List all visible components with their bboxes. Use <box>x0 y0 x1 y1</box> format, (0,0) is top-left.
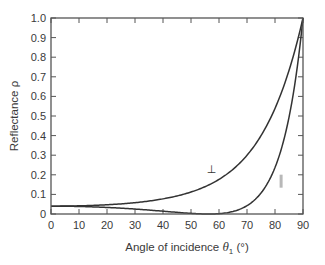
y-tick-label: 0.8 <box>31 51 46 63</box>
perpendicular-curve-label: ⊥ <box>207 163 217 176</box>
y-tick-label: 0 <box>40 208 46 220</box>
reflectance-chart: 00.10.20.30.40.50.60.70.80.91.0 01020304… <box>0 0 325 265</box>
parallel-curve-label <box>280 175 283 188</box>
y-axis-title: Reflectance ρ <box>8 80 20 151</box>
parallel-curve <box>51 18 303 214</box>
x-tick-label: 10 <box>73 219 85 231</box>
y-axis-ticks: 00.10.20.30.40.50.60.70.80.91.0 <box>31 12 303 220</box>
y-tick-label: 0.2 <box>31 169 46 181</box>
y-tick-label: 0.3 <box>31 149 46 161</box>
x-axis-title: Angle of incidence θ1 (°) <box>125 239 249 256</box>
x-axis-title-prefix: Angle of incidence <box>125 241 222 253</box>
plot-frame <box>51 18 303 214</box>
x-axis-title-suffix: (°) <box>233 241 249 253</box>
y-tick-label: 0.7 <box>31 71 46 83</box>
y-tick-label: 0.6 <box>31 90 46 102</box>
perpendicular-curve <box>51 18 303 206</box>
x-tick-label: 80 <box>269 219 281 231</box>
x-tick-label: 60 <box>213 219 225 231</box>
y-tick-label: 0.5 <box>31 110 46 122</box>
x-tick-label: 90 <box>297 219 309 231</box>
x-tick-label: 30 <box>129 219 141 231</box>
y-tick-label: 1.0 <box>31 12 46 24</box>
curves <box>51 18 303 214</box>
x-tick-label: 50 <box>185 219 197 231</box>
y-tick-label: 0.9 <box>31 32 46 44</box>
x-tick-label: 70 <box>241 219 253 231</box>
y-tick-label: 0.1 <box>31 188 46 200</box>
x-tick-label: 20 <box>101 219 113 231</box>
x-axis-ticks: 0102030405060708090 <box>48 18 309 231</box>
x-tick-label: 40 <box>157 219 169 231</box>
y-tick-label: 0.4 <box>31 130 46 142</box>
x-tick-label: 0 <box>48 219 54 231</box>
